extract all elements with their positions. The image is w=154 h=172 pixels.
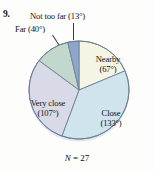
pie-chart-figure: 9. Not too far (13°) Far (40°) Nearby (6…: [0, 0, 154, 172]
slice-callout-label-not-too-far: Not too far (13°): [30, 11, 85, 21]
slice-label-nearby: Nearby (67°): [82, 54, 134, 74]
slice-label-close-value: (133°): [84, 118, 138, 128]
sample-size-annotation: N = 27: [0, 153, 154, 163]
slice-label-very-close: Very close (107°): [17, 98, 79, 118]
slice-label-close: Close (133°): [84, 108, 138, 128]
slice-label-nearby-value: (67°): [82, 64, 134, 74]
slice-label-nearby-name: Nearby: [82, 54, 134, 64]
problem-number: 9.: [3, 9, 10, 19]
slice-callout-label-far: Far (40°): [15, 24, 45, 34]
slice-label-close-name: Close: [84, 108, 138, 118]
slice-label-very-close-value: (107°): [17, 108, 79, 118]
sample-size-value: = 27: [71, 153, 90, 163]
slice-label-very-close-name: Very close: [17, 98, 79, 108]
